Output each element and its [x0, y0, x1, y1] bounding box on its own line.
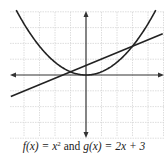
- g-function-label: g(x) = 2x + 3: [83, 140, 145, 152]
- f-function-label: f(x) = x: [23, 140, 58, 152]
- function-graph: [0, 0, 168, 140]
- f-exponent: 2: [57, 140, 61, 148]
- caption-connector: and: [64, 140, 81, 152]
- x-axis-left-arrow-icon: [10, 73, 16, 78]
- figure-caption: f(x) = x2 and g(x) = 2x + 3: [0, 138, 168, 155]
